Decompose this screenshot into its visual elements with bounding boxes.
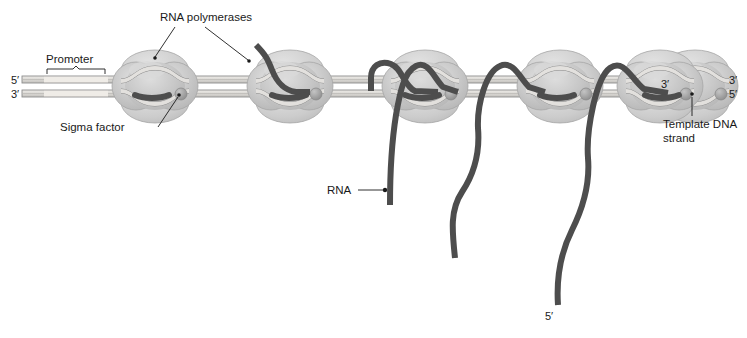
label-dna-right-3-prime: 3′ (729, 74, 737, 86)
label-promoter: Promoter (46, 53, 93, 65)
rna-polymerase-complex-1 (112, 50, 198, 123)
rna-polymerase-complex-6 (617, 50, 703, 123)
label-rna-group: RNA (327, 184, 387, 196)
leader-dot-sigma (177, 93, 181, 97)
leader-dot-2 (247, 59, 251, 63)
sigma-factor-icon (715, 88, 727, 100)
label-template-dna-line1: Template DNA (663, 118, 737, 130)
transcription-figure: RNA polymerases Promoter Sigma factor RN… (0, 0, 747, 338)
promoter-segment (44, 77, 108, 97)
polymerase-body (247, 50, 333, 123)
leader-dot-template (690, 92, 694, 96)
promoter-bracket-icon (47, 66, 105, 74)
label-dna-left-3-prime: 3′ (11, 88, 19, 100)
label-rna-5-prime-free-end: 5′ (545, 310, 553, 322)
label-rna-polymerases: RNA polymerases (160, 11, 252, 23)
label-sigma-factor: Sigma factor (60, 121, 125, 133)
sigma-factor-icon (580, 88, 592, 100)
leader-dot-1 (153, 56, 157, 60)
label-template-dna-line2: strand (663, 132, 695, 144)
leader-line-polymerase-2 (205, 27, 248, 60)
rna-polymerase-complex-2 (247, 50, 333, 123)
label-dna-left-5-prime: 5′ (11, 74, 19, 86)
rna-transcript-1 (135, 95, 169, 98)
label-dna-right-5-prime: 5′ (729, 88, 737, 100)
sigma-factor-icon (310, 88, 322, 100)
label-rna-3-prime-end: 3′ (661, 78, 669, 90)
label-rna: RNA (327, 184, 352, 196)
polymerase-body (112, 50, 198, 123)
transcription-diagram-canvas: RNA polymerases Promoter Sigma factor RN… (0, 0, 747, 338)
leader-dot-rna (383, 188, 387, 192)
label-promoter-group: Promoter (46, 53, 105, 74)
polymerase-body (617, 50, 703, 123)
